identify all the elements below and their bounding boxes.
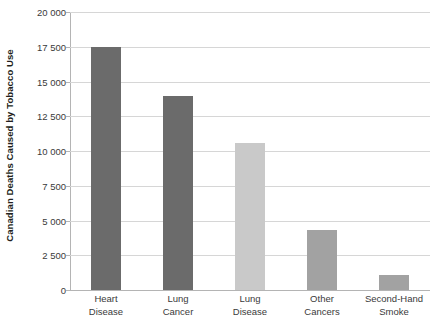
- x-tick-label-line: Smoke: [358, 306, 430, 319]
- bar: [163, 96, 193, 290]
- x-tick-label-line: Second-Hand: [358, 293, 430, 306]
- plot-area: [70, 12, 430, 290]
- bar: [235, 143, 265, 290]
- x-tick-label-line: Lung: [214, 293, 286, 306]
- bar-chart: Canadian Deaths Caused by Tobacco Use 02…: [0, 0, 440, 324]
- x-tick-label-line: Cancers: [286, 306, 358, 319]
- bar: [379, 275, 409, 290]
- gridline: [70, 47, 430, 48]
- gridline: [70, 82, 430, 83]
- x-tick-label: OtherCancers: [286, 293, 358, 318]
- x-axis-tick-labels: HeartDiseaseLungCancerLungDiseaseOtherCa…: [70, 293, 430, 324]
- gridline: [70, 116, 430, 117]
- x-tick-label-line: Lung: [142, 293, 214, 306]
- bar: [307, 230, 337, 290]
- x-tick-label-line: Disease: [70, 306, 142, 319]
- x-tick-label-line: Cancer: [142, 306, 214, 319]
- x-tick-label: LungDisease: [214, 293, 286, 318]
- x-tick-label-line: Disease: [214, 306, 286, 319]
- x-tick-label-line: Other: [286, 293, 358, 306]
- y-axis-tick-marks: [0, 12, 70, 290]
- x-tick-label: HeartDisease: [70, 293, 142, 318]
- bar: [91, 47, 121, 290]
- x-tick-label: LungCancer: [142, 293, 214, 318]
- x-tick-label-line: Heart: [70, 293, 142, 306]
- x-tick-label: Second-HandSmoke: [358, 293, 430, 318]
- gridline: [70, 290, 430, 291]
- gridline: [70, 12, 430, 13]
